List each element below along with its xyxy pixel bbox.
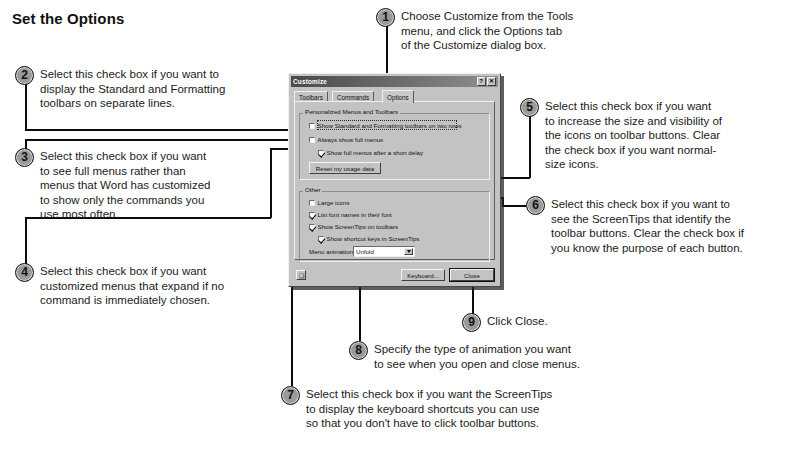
menu-animations-value: Unfold: [356, 248, 374, 255]
callout-bullet-7[interactable]: 7: [281, 386, 300, 405]
callout-text-6: Select this check box if you want to see…: [551, 197, 788, 255]
group-personalized-menus: Personalized Menus and Toolbars Show Sta…: [299, 112, 490, 180]
checkbox-large-icons[interactable]: Large icons: [309, 199, 350, 206]
callout-text-5: Select this check box if you want to inc…: [545, 99, 788, 172]
callout-bullet-3[interactable]: 3: [15, 148, 34, 167]
checkbox-list-font-names[interactable]: List font names in their font: [309, 211, 392, 218]
leader-line-3-h: [25, 139, 312, 141]
dialog-help-icon: ❑: [299, 272, 304, 279]
callout-bullet-4[interactable]: 4: [15, 263, 34, 282]
chevron-down-icon[interactable]: [404, 248, 413, 255]
dialog-tabbody: Personalized Menus and Toolbars Show Sta…: [294, 101, 495, 260]
group-other: Other Large icons List font names in the…: [299, 190, 490, 262]
menu-animations-row: Menu animations:: [309, 248, 358, 255]
checkbox-always-full-menus-box[interactable]: [309, 137, 315, 143]
checkbox-always-full-menus[interactable]: Always show full menus: [309, 136, 383, 143]
callout-bullet-1[interactable]: 1: [376, 8, 395, 27]
callout-bullet-5[interactable]: 5: [520, 98, 539, 117]
dialog-help-button[interactable]: ❑: [296, 270, 306, 280]
checkbox-screentips-toolbars-box[interactable]: [309, 224, 315, 230]
menu-animations-select[interactable]: Unfold: [353, 246, 415, 257]
close-icon[interactable]: ✕: [487, 77, 496, 86]
group-other-label: Other: [303, 186, 322, 193]
checkbox-full-menus-delay-box[interactable]: [318, 150, 324, 156]
checkbox-screentips-toolbars[interactable]: Show ScreenTips on toolbars: [309, 223, 398, 230]
close-button[interactable]: Close: [450, 269, 494, 281]
checkbox-list-font-names-label: List font names in their font: [318, 211, 392, 218]
checkbox-always-full-menus-label: Always show full menus: [318, 136, 384, 143]
illustration-canvas: Set the Options 1 Choose Customize from …: [0, 0, 788, 451]
checkbox-shortcut-keys-box[interactable]: [318, 236, 324, 242]
checkbox-screentips-toolbars-label: Show ScreenTips on toolbars: [318, 223, 399, 230]
leader-line-2-h: [25, 129, 312, 131]
checkbox-shortcut-keys[interactable]: Show shortcut keys in ScreenTips: [318, 235, 419, 242]
tab-options-label: Options: [387, 94, 409, 101]
focus-rect: [317, 120, 457, 130]
leader-line-5-v: [529, 116, 531, 178]
callout-bullet-9[interactable]: 9: [462, 313, 481, 332]
customize-dialog[interactable]: Customize ? ✕ Toolbars Commands Options …: [288, 73, 501, 287]
leader-line-6-h: [502, 205, 526, 207]
checkbox-large-icons-box[interactable]: [309, 200, 315, 206]
checkbox-list-font-names-box[interactable]: [309, 212, 315, 218]
checkbox-shortcut-keys-label: Show shortcut keys in ScreenTips: [327, 235, 420, 242]
callout-text-7: Select this check box if you want the Sc…: [306, 387, 726, 431]
tab-options[interactable]: Options: [382, 90, 414, 103]
group-personalized-label: Personalized Menus and Toolbars: [303, 108, 400, 115]
callout-text-1: Choose Customize from the Tools menu, an…: [401, 9, 701, 53]
callout-bullet-6[interactable]: 6: [526, 196, 545, 215]
callout-text-4: Select this check box if you want custom…: [40, 264, 290, 308]
dialog-title: Customize: [293, 78, 475, 85]
reset-usage-data-button[interactable]: Reset my usage data: [309, 162, 381, 174]
page-title: Set the Options: [12, 10, 124, 27]
reset-usage-data-label: Reset my usage data: [316, 165, 374, 172]
callout-text-9: Click Close.: [487, 314, 687, 329]
dialog-titlebar[interactable]: Customize ? ✕: [291, 76, 498, 87]
help-icon[interactable]: ?: [477, 77, 486, 86]
close-button-label: Close: [464, 272, 480, 279]
callout-bullet-8[interactable]: 8: [349, 341, 368, 360]
keyboard-button[interactable]: Keyboard...: [401, 269, 445, 281]
menu-animations-label: Menu animations:: [309, 248, 358, 255]
checkbox-large-icons-label: Large icons: [318, 199, 350, 206]
callout-text-2: Select this check box if you want to dis…: [40, 67, 290, 111]
leader-line-4-v2: [25, 218, 27, 264]
leader-line-2-v: [25, 84, 27, 130]
tab-commands-label: Commands: [337, 94, 369, 101]
callout-text-8: Specify the type of animation you want t…: [374, 342, 734, 371]
leader-line-6-v: [502, 197, 504, 206]
callout-bullet-2[interactable]: 2: [15, 66, 34, 85]
checkbox-two-rows-box[interactable]: [309, 123, 315, 129]
tab-toolbars-label: Toolbars: [299, 94, 323, 101]
callout-text-3: Select this check box if you want to see…: [40, 149, 285, 222]
keyboard-button-label: Keyboard...: [407, 272, 439, 279]
checkbox-full-menus-delay-label: Show full menus after a short delay: [327, 149, 424, 156]
checkbox-full-menus-delay[interactable]: Show full menus after a short delay: [318, 149, 423, 156]
leader-line-5-h: [502, 177, 530, 179]
